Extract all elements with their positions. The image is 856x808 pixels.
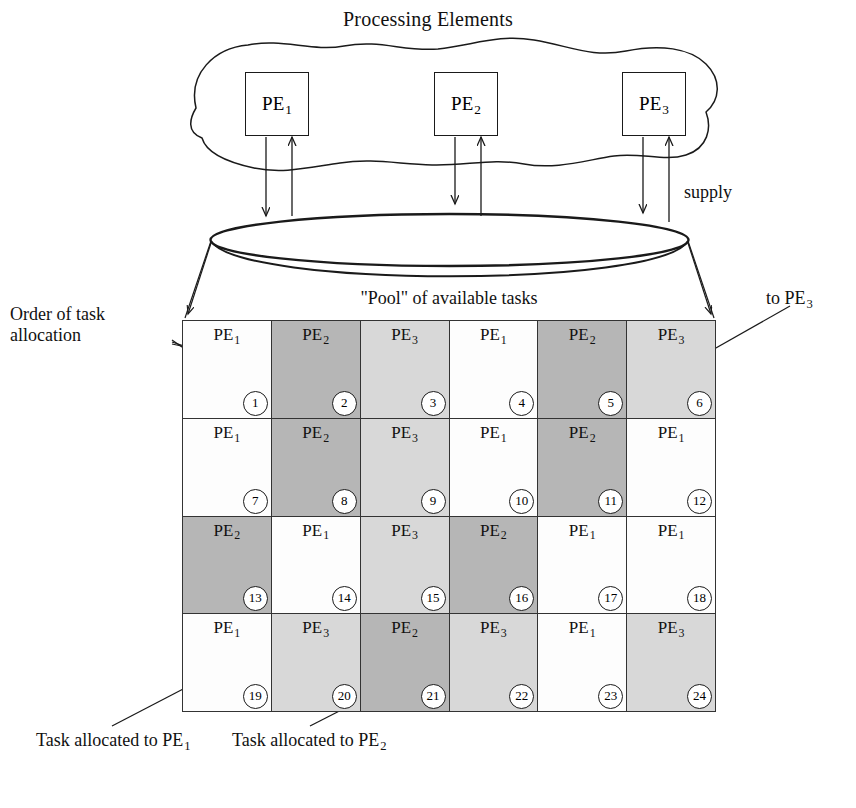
- task-cell-pe-label: PE1: [538, 618, 626, 638]
- task-cell[interactable]: PE36: [627, 321, 716, 419]
- task-cell[interactable]: PE123: [538, 614, 627, 712]
- task-order-badge: 5: [598, 391, 623, 416]
- task-order-badge: 19: [243, 684, 268, 709]
- task-cell-pe-label: PE3: [361, 423, 449, 443]
- order-of-allocation-label: Order of task allocation: [10, 304, 175, 346]
- task-cell[interactable]: PE117: [538, 517, 627, 615]
- task-order-badge: 2: [332, 391, 357, 416]
- task-order-badge: 18: [687, 586, 712, 611]
- task-order-badge: 24: [687, 684, 712, 709]
- pe-box-2-label: PE2: [451, 93, 481, 115]
- task-cell[interactable]: PE25: [538, 321, 627, 419]
- task-cell[interactable]: PE112: [627, 419, 716, 517]
- task-cell[interactable]: PE211: [538, 419, 627, 517]
- task-order-badge: 13: [243, 586, 268, 611]
- task-cell-pe-label: PE2: [450, 521, 538, 541]
- task-cell-pe-label: PE3: [627, 325, 715, 345]
- legend-task-allocated-pe2: Task allocated to PE2: [232, 730, 422, 751]
- pe-pool-flow-arrows: [266, 137, 669, 222]
- task-cell-pe-label: PE1: [538, 521, 626, 541]
- task-cell[interactable]: PE28: [272, 419, 361, 517]
- task-cell-pe-label: PE3: [627, 618, 715, 638]
- pe-box-2[interactable]: PE2: [434, 72, 498, 136]
- task-cell-pe-label: PE1: [450, 423, 538, 443]
- diagram-canvas: Processing Elements PE1 PE2 PE3 supply "…: [0, 0, 856, 808]
- task-order-badge: 23: [598, 684, 623, 709]
- task-order-badge: 3: [421, 391, 446, 416]
- task-order-badge: 8: [332, 489, 357, 514]
- task-cell-pe-label: PE2: [272, 325, 360, 345]
- supply-label: supply: [684, 182, 732, 203]
- task-cell[interactable]: PE39: [361, 419, 450, 517]
- task-cell[interactable]: PE322: [450, 614, 539, 712]
- task-order-badge: 21: [421, 684, 446, 709]
- pe-box-1[interactable]: PE1: [245, 72, 309, 136]
- task-order-badge: 6: [687, 391, 712, 416]
- pe-box-3-label: PE3: [639, 93, 669, 115]
- pe-box-1-label: PE1: [262, 93, 292, 115]
- task-cell-pe-label: PE1: [627, 423, 715, 443]
- task-cell-pe-label: PE2: [361, 618, 449, 638]
- task-order-badge: 4: [509, 391, 534, 416]
- task-order-badge: 1: [243, 391, 268, 416]
- task-pool-grid: PE11PE22PE33PE14PE25PE36PE17PE28PE39PE11…: [182, 320, 716, 712]
- task-cell[interactable]: PE216: [450, 517, 539, 615]
- legend-task-allocated-pe1: Task allocated to PE1: [36, 730, 226, 751]
- task-cell[interactable]: PE110: [450, 419, 539, 517]
- task-cell[interactable]: PE118: [627, 517, 716, 615]
- task-cell-pe-label: PE1: [627, 521, 715, 541]
- task-cell[interactable]: PE33: [361, 321, 450, 419]
- task-cell[interactable]: PE14: [450, 321, 539, 419]
- task-cell[interactable]: PE320: [272, 614, 361, 712]
- task-order-badge: 15: [421, 586, 446, 611]
- task-cell[interactable]: PE221: [361, 614, 450, 712]
- task-order-badge: 16: [509, 586, 534, 611]
- to-pe3-label: to PE3: [766, 288, 813, 309]
- task-order-badge: 17: [598, 586, 623, 611]
- task-cell-pe-label: PE1: [183, 325, 271, 345]
- task-order-badge: 22: [509, 684, 534, 709]
- task-cell-pe-label: PE1: [450, 325, 538, 345]
- task-cell-pe-label: PE1: [183, 618, 271, 638]
- task-cell-pe-label: PE1: [272, 521, 360, 541]
- task-order-badge: 12: [687, 489, 712, 514]
- task-cell[interactable]: PE17: [183, 419, 272, 517]
- task-cell-pe-label: PE2: [272, 423, 360, 443]
- pool-caption: "Pool" of available tasks: [182, 288, 716, 309]
- task-order-badge: 20: [332, 684, 357, 709]
- task-cell-pe-label: PE3: [272, 618, 360, 638]
- task-cell[interactable]: PE119: [183, 614, 272, 712]
- task-cell[interactable]: PE315: [361, 517, 450, 615]
- task-cell[interactable]: PE11: [183, 321, 272, 419]
- task-order-badge: 14: [332, 586, 357, 611]
- task-cell-pe-label: PE3: [450, 618, 538, 638]
- task-order-badge: 9: [421, 489, 446, 514]
- task-cell[interactable]: PE324: [627, 614, 716, 712]
- task-cell[interactable]: PE213: [183, 517, 272, 615]
- task-cell-pe-label: PE2: [538, 325, 626, 345]
- task-cell-pe-label: PE2: [538, 423, 626, 443]
- diagram-title: Processing Elements: [0, 8, 856, 31]
- task-cell[interactable]: PE22: [272, 321, 361, 419]
- task-cell[interactable]: PE114: [272, 517, 361, 615]
- task-order-badge: 11: [598, 489, 623, 514]
- task-order-badge: 7: [243, 489, 268, 514]
- pe-box-3[interactable]: PE3: [622, 72, 686, 136]
- task-cell-pe-label: PE3: [361, 325, 449, 345]
- task-cell-pe-label: PE1: [183, 423, 271, 443]
- task-cell-pe-label: PE2: [183, 521, 271, 541]
- task-cell-pe-label: PE3: [361, 521, 449, 541]
- task-order-badge: 10: [509, 489, 534, 514]
